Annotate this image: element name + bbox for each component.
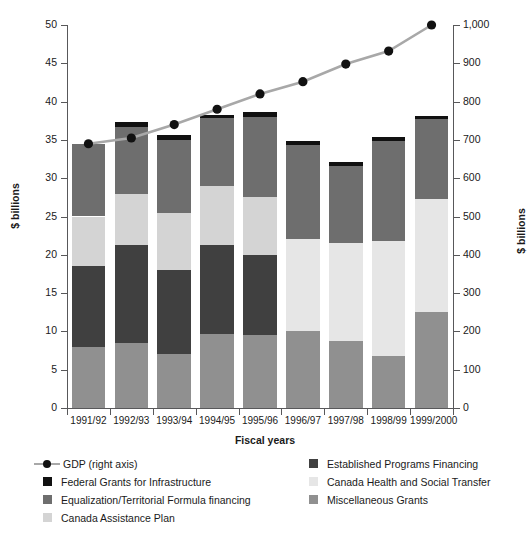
- bar-segment[interactable]: [157, 140, 190, 213]
- bar-segment[interactable]: [200, 118, 233, 185]
- bar-segment[interactable]: [286, 145, 319, 239]
- bar-segment[interactable]: [415, 116, 448, 119]
- x-axis-tick: [153, 409, 154, 415]
- legend-label: Equalization/Territorial Formula financi…: [61, 494, 251, 506]
- left-axis-tick: [61, 25, 67, 26]
- x-axis-tick-label: 1993/94: [153, 415, 196, 426]
- bar-stack[interactable]: [243, 25, 276, 408]
- x-axis-tick-label: 1995/96: [239, 415, 282, 426]
- left-axis-tick-label: 35: [45, 134, 57, 145]
- left-axis-tick: [61, 102, 67, 103]
- bar-segment[interactable]: [115, 122, 148, 127]
- bar-stack[interactable]: [329, 25, 362, 408]
- bar-segment[interactable]: [157, 354, 190, 408]
- bar-segment[interactable]: [372, 356, 405, 408]
- right-axis-tick-label: 700: [463, 134, 481, 145]
- bar-segment[interactable]: [200, 334, 233, 408]
- bar-segment[interactable]: [243, 255, 276, 335]
- legend-item[interactable]: Canada Assistance Plan: [34, 509, 294, 526]
- bar-segment[interactable]: [329, 166, 362, 243]
- right-axis-tick-label: 800: [463, 96, 481, 107]
- x-axis-tick: [110, 409, 111, 415]
- bar-segment[interactable]: [200, 186, 233, 245]
- bar-stack[interactable]: [415, 25, 448, 408]
- bar-segment[interactable]: [286, 141, 319, 146]
- left-axis-tick-label: 40: [45, 96, 57, 107]
- x-axis-tick-label: 1997/98: [324, 415, 367, 426]
- bar-segment[interactable]: [72, 217, 105, 267]
- bar-segment[interactable]: [157, 135, 190, 140]
- bar-segment[interactable]: [329, 243, 362, 341]
- bar-segment[interactable]: [157, 213, 190, 270]
- bar-stack[interactable]: [200, 25, 233, 408]
- bar-stack[interactable]: [372, 25, 405, 408]
- left-axis-tick-label: 15: [45, 287, 57, 298]
- left-axis-tick-label: 0: [51, 402, 57, 413]
- legend-label: Canada Health and Social Transfer: [327, 476, 490, 488]
- bar-segment[interactable]: [72, 347, 105, 408]
- legend-item[interactable]: GDP (right axis): [34, 455, 294, 472]
- legend-label: Miscellaneous Grants: [327, 494, 428, 506]
- bar-segment[interactable]: [329, 341, 362, 408]
- x-axis-tick-label: 1998/99: [367, 415, 410, 426]
- right-axis-tick-label: 200: [463, 325, 481, 336]
- legend-item[interactable]: Federal Grants for Infrastructure: [34, 473, 294, 490]
- legend-line-marker-icon: [34, 459, 60, 468]
- right-axis-tick: [454, 217, 460, 218]
- legend-color-swatch-icon: [309, 459, 318, 468]
- bar-segment[interactable]: [115, 194, 148, 245]
- legend-label: Federal Grants for Infrastructure: [61, 476, 211, 488]
- bar-segment[interactable]: [115, 343, 148, 408]
- bar-segment[interactable]: [372, 141, 405, 241]
- right-axis-tick-label: 1,000: [463, 19, 489, 30]
- bar-segment[interactable]: [115, 245, 148, 343]
- bar-segment[interactable]: [286, 239, 319, 331]
- bar-segment[interactable]: [372, 241, 405, 356]
- bar-segment[interactable]: [329, 162, 362, 166]
- bar-stack[interactable]: [286, 25, 319, 408]
- chart-legend: GDP (right axis)Federal Grants for Infra…: [0, 455, 530, 535]
- right-axis-tick: [454, 25, 460, 26]
- bar-stack[interactable]: [115, 25, 148, 408]
- bar-segment[interactable]: [415, 312, 448, 408]
- x-axis-tick: [453, 409, 454, 415]
- right-axis-tick-label: 0: [463, 402, 469, 413]
- cropped-title-text: [0, 0, 530, 8]
- bar-segment[interactable]: [372, 137, 405, 142]
- x-axis-tick: [239, 409, 240, 415]
- legend-color-swatch-icon: [43, 495, 52, 504]
- bar-segment[interactable]: [243, 335, 276, 408]
- bar-segment[interactable]: [415, 119, 448, 199]
- right-axis-tick-label: 900: [463, 57, 481, 68]
- bar-segment[interactable]: [243, 197, 276, 254]
- bar-segment[interactable]: [115, 127, 148, 194]
- right-axis-tick: [454, 102, 460, 103]
- left-axis-tick-label: 30: [45, 172, 57, 183]
- right-axis-tick-label: 100: [463, 364, 481, 375]
- legend-item[interactable]: Miscellaneous Grants: [300, 491, 530, 508]
- legend-item[interactable]: Canada Health and Social Transfer: [300, 473, 530, 490]
- bar-segment[interactable]: [200, 115, 233, 119]
- bar-segment[interactable]: [415, 199, 448, 312]
- bar-segment[interactable]: [72, 144, 105, 217]
- bar-segment[interactable]: [243, 117, 276, 197]
- bar-stack[interactable]: [72, 25, 105, 408]
- bar-segment[interactable]: [157, 270, 190, 354]
- bar-stack[interactable]: [157, 25, 190, 408]
- bar-segment[interactable]: [72, 266, 105, 346]
- bar-segment[interactable]: [200, 245, 233, 335]
- right-axis-tick: [454, 370, 460, 371]
- left-axis-title: $ billions: [9, 183, 21, 229]
- left-axis-tick-label: 5: [51, 364, 57, 375]
- right-axis-tick: [454, 140, 460, 141]
- right-axis-tick: [454, 255, 460, 256]
- legend-label: GDP (right axis): [63, 458, 138, 470]
- left-axis-tick-label: 50: [45, 19, 57, 30]
- bar-segment[interactable]: [286, 331, 319, 408]
- right-axis-tick-label: 500: [463, 211, 481, 222]
- legend-item[interactable]: Equalization/Territorial Formula financi…: [34, 491, 294, 508]
- legend-label: Canada Assistance Plan: [61, 512, 175, 524]
- bar-segment[interactable]: [243, 112, 276, 117]
- legend-item[interactable]: Established Programs Financing: [300, 455, 530, 472]
- left-axis-tick-label: 20: [45, 249, 57, 260]
